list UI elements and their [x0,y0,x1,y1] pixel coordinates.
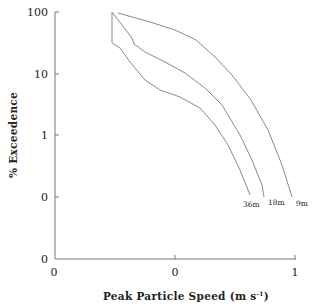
series-labels: 36m 18m 9m [243,198,308,209]
x-axis-title-close: ) [264,290,269,302]
y-tick-label: 10 [34,68,48,81]
series-label-36m: 36m [243,200,260,209]
y-tick-label: 0 [41,253,48,266]
series-label-18m: 18m [268,198,285,207]
y-tick-label: 0 [41,191,48,204]
y-tick-labels: 100 10 1 0 0 [27,6,48,266]
y-tick-label: 100 [27,6,48,19]
curve-9m [118,13,292,197]
curve-18m [112,12,264,197]
curves [112,12,292,197]
axes [55,12,296,259]
series-label-9m: 9m [296,199,308,208]
x-tick-label: 1 [292,266,299,279]
x-axis-title-sup: -1 [257,290,264,297]
y-axis-title: % Exceedence [7,92,19,178]
x-tick-label: 0 [51,266,58,279]
exceedence-chart: 100 10 1 0 0 0 0 1 % Exceedence Peak Par… [0,0,312,307]
x-tick-label: 0 [172,266,179,279]
x-axis-title-main: Peak Particle Speed (m s [103,290,257,302]
x-tick-labels: 0 0 1 [51,266,299,279]
x-axis-title: Peak Particle Speed (m s-1) [103,290,269,302]
y-tick-label: 1 [41,129,48,142]
